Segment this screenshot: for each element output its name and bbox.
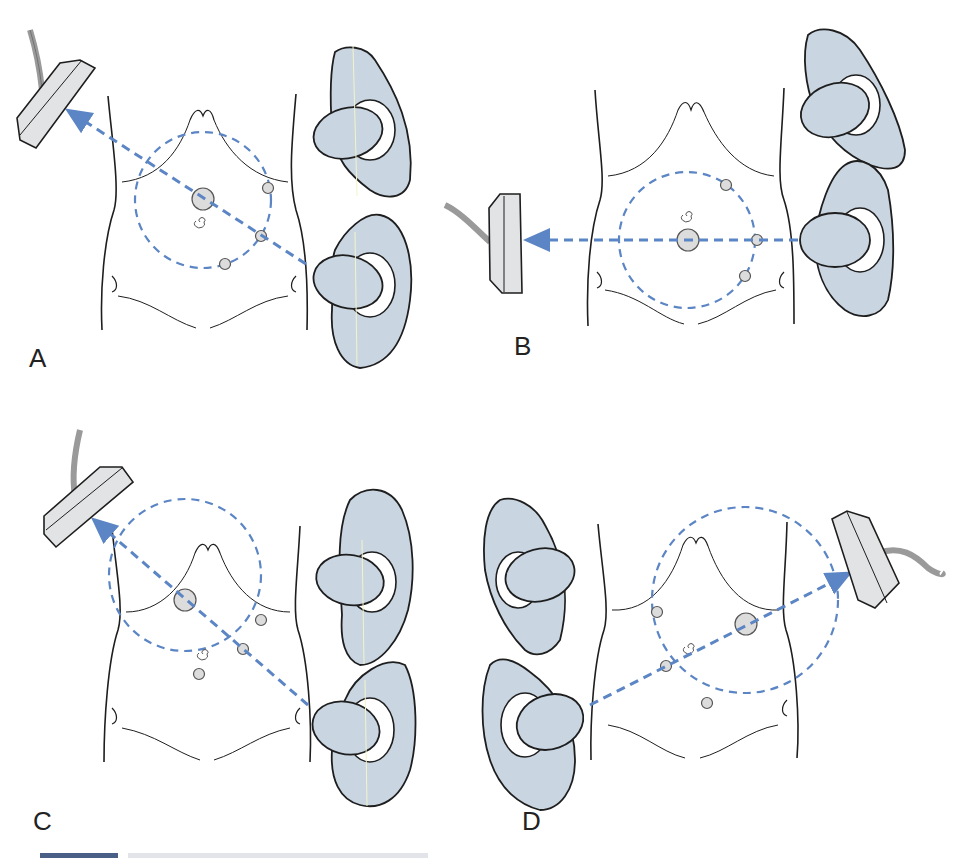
caption-text-cropped — [128, 853, 428, 858]
ultrasound-probe — [17, 30, 95, 148]
torso-outline — [588, 88, 795, 326]
breast-cup-lower — [307, 215, 411, 368]
panel-label-a: A — [29, 345, 46, 371]
breast-cup-upper — [308, 46, 411, 197]
panel-d — [483, 499, 943, 810]
breast-cup-upper — [312, 490, 412, 665]
ultrasound-positioning-figure — [0, 0, 962, 858]
ultrasound-probe — [832, 511, 943, 608]
scan-field-circle — [652, 507, 838, 693]
torso-outline — [102, 94, 308, 330]
ultrasound-probe — [44, 430, 133, 547]
breast-cup-upper — [793, 30, 905, 169]
ultrasound-probe — [445, 194, 522, 293]
torso-outline — [591, 522, 798, 760]
organ-markers — [677, 180, 763, 282]
breast-cup-lower — [800, 161, 893, 316]
umbilicus-icon — [684, 644, 694, 654]
panel-a — [17, 30, 411, 368]
panel-label-b: B — [514, 333, 531, 359]
breast-cup-lower — [483, 660, 592, 810]
caption-bar — [40, 853, 118, 858]
torso-outline — [104, 526, 311, 762]
panel-b — [445, 30, 905, 326]
panel-label-c: C — [33, 808, 52, 834]
panel-c — [44, 430, 415, 806]
panel-label-d: D — [522, 808, 541, 834]
umbilicus-icon — [682, 212, 692, 222]
umbilicus-icon — [198, 650, 208, 660]
organ-markers — [652, 607, 758, 709]
breast-cup-lower — [306, 662, 415, 806]
beam-arrow — [100, 525, 308, 705]
breast-cup-upper — [484, 499, 581, 655]
beam-arrow — [590, 577, 842, 705]
umbilicus-icon — [195, 218, 205, 228]
